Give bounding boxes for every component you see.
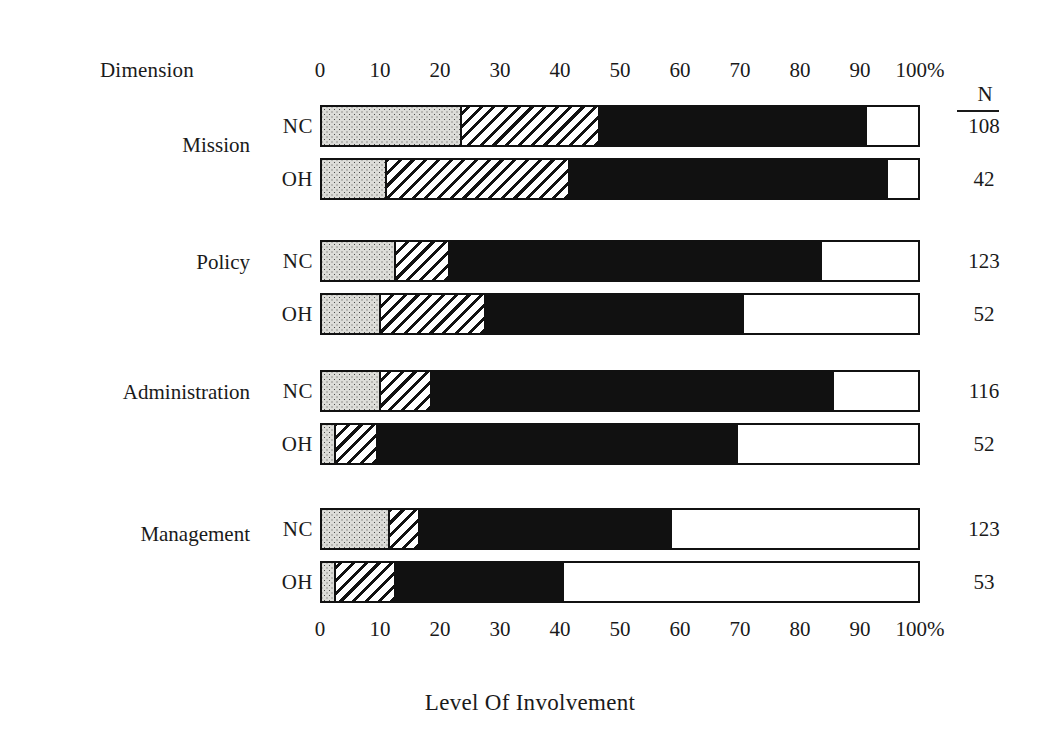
group-label-policy: Policy: [20, 250, 250, 275]
bar-row-label-nc: NC: [255, 517, 313, 542]
bar-segment-low: [334, 563, 394, 601]
bar-segment-moderate: [484, 295, 742, 333]
axis-tick-30: 30: [470, 58, 530, 83]
bar-segment-none: [322, 563, 334, 601]
axis-tick-10: 10: [350, 617, 410, 642]
bar-segment-none: [322, 242, 394, 280]
n-column-rule: [957, 110, 999, 112]
bar-segment-none: [322, 160, 385, 198]
bar-segment-high: [670, 510, 920, 548]
axis-tick-90: 90: [830, 58, 890, 83]
bar-segment-none: [322, 372, 379, 410]
axis-tick-10: 10: [350, 58, 410, 83]
axis-top: 0102030405060708090100%: [320, 58, 920, 82]
bar-row-label-nc: NC: [255, 249, 313, 274]
axis-tick-20: 20: [410, 617, 470, 642]
axis-tick-70: 70: [710, 58, 770, 83]
bar-segment-none: [322, 425, 334, 463]
bar-row-label-nc: NC: [255, 114, 313, 139]
axis-tick-100: 100%: [890, 617, 950, 642]
axis-tick-100: 100%: [890, 58, 950, 83]
bar-segment-none: [322, 510, 388, 548]
chart-container: Dimension N 0102030405060708090100% Miss…: [0, 0, 1060, 747]
dimension-axis-label: Dimension: [100, 58, 300, 83]
n-value: 116: [948, 379, 1020, 404]
n-value: 52: [948, 302, 1020, 327]
axis-bottom: 0102030405060708090100%: [320, 617, 920, 641]
bar-segment-moderate: [598, 107, 865, 145]
bar-row-label-oh: OH: [255, 432, 313, 457]
axis-tick-20: 20: [410, 58, 470, 83]
axis-tick-0: 0: [290, 617, 350, 642]
bar-segment-moderate: [394, 563, 562, 601]
n-value: 53: [948, 570, 1020, 595]
bar-segment-high: [736, 425, 920, 463]
axis-tick-90: 90: [830, 617, 890, 642]
bar-segment-low: [334, 425, 376, 463]
bar-segment-none: [322, 107, 460, 145]
axis-tick-0: 0: [290, 58, 350, 83]
stacked-bar: [320, 561, 920, 603]
axis-tick-60: 60: [650, 58, 710, 83]
bar-segment-low: [385, 160, 568, 198]
n-value: 123: [948, 249, 1020, 274]
stacked-bar: [320, 293, 920, 335]
group-label-management: Management: [20, 522, 250, 547]
n-column-header: N: [955, 82, 1015, 107]
axis-tick-40: 40: [530, 58, 590, 83]
stacked-bar: [320, 105, 920, 147]
group-label-administration: Administration: [20, 380, 250, 405]
axis-tick-40: 40: [530, 617, 590, 642]
axis-tick-80: 80: [770, 58, 830, 83]
axis-tick-50: 50: [590, 58, 650, 83]
bar-segment-high: [865, 107, 920, 145]
bar-segment-low: [394, 242, 448, 280]
bar-row-label-oh: OH: [255, 167, 313, 192]
axis-tick-80: 80: [770, 617, 830, 642]
bar-segment-high: [832, 372, 920, 410]
bar-segment-high: [886, 160, 920, 198]
bar-segment-low: [388, 510, 418, 548]
bar-segment-low: [379, 295, 484, 333]
bar-segment-low: [460, 107, 598, 145]
bar-segment-moderate: [376, 425, 736, 463]
axis-tick-50: 50: [590, 617, 650, 642]
bar-segment-moderate: [568, 160, 886, 198]
bar-segment-moderate: [418, 510, 670, 548]
bar-segment-low: [379, 372, 430, 410]
bar-row-label-nc: NC: [255, 379, 313, 404]
group-label-mission: Mission: [20, 133, 250, 158]
stacked-bar: [320, 370, 920, 412]
bar-segment-high: [742, 295, 920, 333]
stacked-bar: [320, 240, 920, 282]
bar-row-label-oh: OH: [255, 570, 313, 595]
bar-row-label-oh: OH: [255, 302, 313, 327]
n-value: 42: [948, 167, 1020, 192]
stacked-bar: [320, 508, 920, 550]
n-value: 123: [948, 517, 1020, 542]
n-value: 52: [948, 432, 1020, 457]
axis-tick-60: 60: [650, 617, 710, 642]
bar-segment-high: [820, 242, 920, 280]
bar-segment-high: [562, 563, 920, 601]
bar-segment-moderate: [448, 242, 820, 280]
stacked-bar: [320, 158, 920, 200]
bar-segment-moderate: [430, 372, 832, 410]
axis-tick-30: 30: [470, 617, 530, 642]
axis-tick-70: 70: [710, 617, 770, 642]
bar-segment-none: [322, 295, 379, 333]
n-value: 108: [948, 114, 1020, 139]
stacked-bar: [320, 423, 920, 465]
chart-title: Level Of Involvement: [0, 690, 1060, 716]
